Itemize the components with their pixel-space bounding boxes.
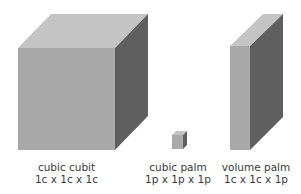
cubic-cubit-name: cubic cubit: [18, 161, 115, 173]
cubic-palm-cube: [172, 131, 187, 149]
volume-palm-name: volume palm: [218, 161, 294, 173]
cubic-cubit-dims: 1c x 1c x 1c: [18, 173, 115, 185]
cubic-cubit-cube: [18, 14, 148, 150]
cubic-palm-label: cubic palm 1p x 1p x 1p: [142, 161, 214, 185]
cubic-palm-dims: 1p x 1p x 1p: [142, 173, 214, 185]
cubic-palm-name: cubic palm: [142, 161, 214, 173]
volume-palm-front-face: [230, 46, 250, 150]
volume-palm-label: volume palm 1c x 1c x 1p: [218, 161, 294, 185]
volume-palm-dims: 1c x 1c x 1p: [218, 173, 294, 185]
cubic-palm-front-face: [172, 135, 183, 149]
cubic-cubit-label: cubic cubit 1c x 1c x 1c: [18, 161, 115, 185]
volume-palm-slab: [230, 14, 283, 150]
cubic-cubit-front-face: [18, 48, 115, 150]
